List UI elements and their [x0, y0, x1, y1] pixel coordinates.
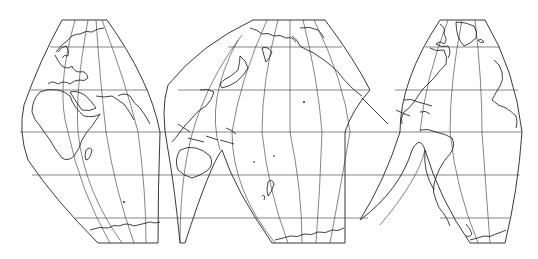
- lobe-outline: [22, 20, 160, 243]
- world-map: [0, 0, 538, 259]
- island: [253, 161, 255, 163]
- lobe-outline: [164, 20, 370, 243]
- lobe-outline: [360, 20, 522, 243]
- pacific-lobe: [160, 20, 370, 243]
- island: [273, 155, 275, 157]
- eurasia-africa-lobe: [20, 20, 160, 243]
- americas-lobe: [360, 20, 522, 243]
- hawaii-island: [303, 101, 305, 103]
- island: [123, 201, 125, 203]
